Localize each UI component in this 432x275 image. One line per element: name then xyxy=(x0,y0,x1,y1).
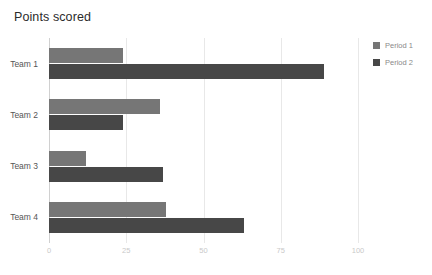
legend-swatch-icon xyxy=(373,42,380,49)
bar-group xyxy=(49,202,358,233)
x-tick-label: 25 xyxy=(122,246,130,255)
legend-swatch-icon xyxy=(373,59,380,66)
category-label: Team 1 xyxy=(10,59,38,69)
category-label: Team 4 xyxy=(10,212,38,222)
x-tick-label: 50 xyxy=(199,246,207,255)
legend-item[interactable]: Period 2 xyxy=(373,55,429,69)
chart-legend: Period 1Period 2 xyxy=(373,38,429,72)
bar[interactable] xyxy=(49,202,166,217)
plot-area xyxy=(49,38,358,243)
legend-label: Period 2 xyxy=(385,58,413,67)
bar[interactable] xyxy=(49,64,324,79)
bar-group xyxy=(49,48,358,79)
bar[interactable] xyxy=(49,151,86,166)
bar[interactable] xyxy=(49,99,160,114)
x-tick-label: 75 xyxy=(277,246,285,255)
value-axis: 0255075100 xyxy=(49,246,358,260)
bar-group xyxy=(49,99,358,130)
bar[interactable] xyxy=(49,48,123,63)
category-label: Team 3 xyxy=(10,161,38,171)
chart-title: Points scored xyxy=(14,10,91,24)
bar-group xyxy=(49,151,358,182)
x-tick-label: 0 xyxy=(47,246,51,255)
category-axis: Team 1Team 2Team 3Team 4 xyxy=(0,38,46,243)
gridline-100 xyxy=(358,38,359,243)
legend-item[interactable]: Period 1 xyxy=(373,38,429,52)
bar[interactable] xyxy=(49,115,123,130)
bar-chart: Points scored Team 1Team 2Team 3Team 4 0… xyxy=(0,0,432,275)
legend-label: Period 1 xyxy=(385,41,413,50)
x-tick-label: 100 xyxy=(352,246,365,255)
bar[interactable] xyxy=(49,218,244,233)
bar[interactable] xyxy=(49,167,163,182)
category-label: Team 2 xyxy=(10,110,38,120)
